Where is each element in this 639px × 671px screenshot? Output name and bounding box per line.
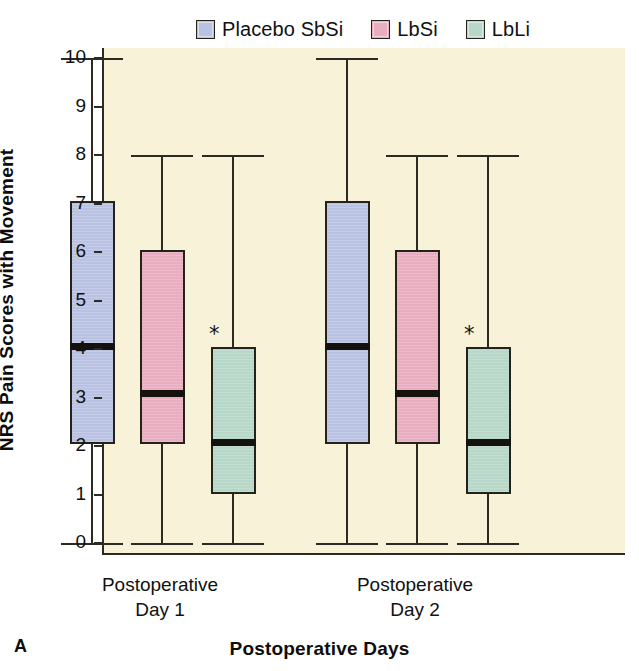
legend-item-lbsi: LbSi bbox=[371, 19, 437, 39]
x-category-label-1: PostoperativeDay 1 bbox=[50, 572, 270, 622]
whisker-upper-lbsi-day2 bbox=[416, 155, 418, 250]
x-category-label-2: PostoperativeDay 2 bbox=[305, 572, 525, 622]
whisker-cap-upper-placebo-sbsi-day2 bbox=[316, 58, 378, 60]
panel-letter: A bbox=[14, 636, 27, 657]
y-tick-mark-0 bbox=[94, 542, 102, 544]
x-category-label-line: Day 2 bbox=[305, 597, 525, 622]
y-tick-mark-6 bbox=[94, 251, 102, 253]
box-texture bbox=[327, 203, 368, 442]
median-line-placebo-sbsi-day2 bbox=[325, 343, 370, 350]
median-line-lbli-day2 bbox=[466, 439, 511, 446]
plot-area: ** bbox=[102, 48, 625, 555]
box-texture bbox=[468, 349, 509, 492]
whisker-cap-upper-lbli-day2 bbox=[457, 155, 519, 157]
y-tick-label-3: 3 bbox=[56, 386, 86, 408]
y-tick-mark-3 bbox=[94, 397, 102, 399]
y-tick-label-4: 4 bbox=[56, 337, 86, 359]
x-axis-title: Postoperative Days bbox=[0, 638, 639, 660]
box-texture bbox=[142, 252, 183, 442]
whisker-cap-upper-lbli-day1 bbox=[202, 155, 264, 157]
box-lbsi-day2 bbox=[395, 250, 440, 444]
y-tick-label-0: 0 bbox=[56, 531, 86, 553]
y-tick-label-10: 10 bbox=[56, 46, 86, 68]
whisker-upper-placebo-sbsi-day2 bbox=[346, 58, 348, 201]
y-tick-label-6: 6 bbox=[56, 240, 86, 262]
whisker-upper-placebo-sbsi-day1 bbox=[91, 58, 93, 201]
box-lbsi-day1 bbox=[140, 250, 185, 444]
y-tick-label-9: 9 bbox=[56, 95, 86, 117]
median-line-lbli-day1 bbox=[211, 439, 256, 446]
x-category-label-line: Postoperative bbox=[305, 572, 525, 597]
legend-label-placebo: Placebo SbSi bbox=[222, 19, 343, 39]
legend-item-lbli: LbLi bbox=[466, 19, 530, 39]
y-tick-label-2: 2 bbox=[56, 434, 86, 456]
median-line-lbsi-day1 bbox=[140, 390, 185, 397]
whisker-upper-lbsi-day1 bbox=[161, 155, 163, 250]
legend-swatch-lbsi bbox=[371, 20, 390, 39]
y-tick-mark-9 bbox=[94, 106, 102, 108]
whisker-cap-lower-lbli-day1 bbox=[202, 543, 264, 545]
y-tick-mark-7 bbox=[94, 203, 102, 205]
box-texture bbox=[213, 349, 254, 492]
whisker-cap-lower-lbli-day2 bbox=[457, 543, 519, 545]
legend-label-lbli: LbLi bbox=[492, 19, 530, 39]
whisker-upper-lbli-day1 bbox=[232, 155, 234, 347]
box-lbli-day2 bbox=[466, 347, 511, 494]
y-tick-mark-10 bbox=[94, 57, 102, 59]
y-tick-mark-5 bbox=[94, 300, 102, 302]
whisker-lower-lbli-day1 bbox=[232, 494, 234, 543]
whisker-cap-lower-placebo-sbsi-day2 bbox=[316, 543, 378, 545]
whisker-lower-lbli-day2 bbox=[487, 494, 489, 543]
y-tick-label-1: 1 bbox=[56, 483, 86, 505]
legend-label-lbsi: LbSi bbox=[397, 19, 437, 39]
y-tick-label-7: 7 bbox=[56, 192, 86, 214]
box-texture bbox=[397, 252, 438, 442]
y-axis-title: NRS Pain Scores with Movement bbox=[0, 149, 18, 451]
x-category-label-line: Postoperative bbox=[50, 572, 270, 597]
whisker-lower-placebo-sbsi-day1 bbox=[91, 444, 93, 543]
box-placebo-sbsi-day2 bbox=[325, 201, 370, 444]
whisker-lower-lbsi-day1 bbox=[161, 444, 163, 543]
y-tick-mark-8 bbox=[94, 154, 102, 156]
y-tick-label-5: 5 bbox=[56, 289, 86, 311]
whisker-upper-lbli-day2 bbox=[487, 155, 489, 347]
legend-swatch-placebo bbox=[196, 20, 215, 39]
whisker-cap-lower-lbsi-day1 bbox=[131, 543, 193, 545]
x-category-label-line: Day 1 bbox=[50, 597, 270, 622]
whisker-cap-lower-lbsi-day2 bbox=[386, 543, 448, 545]
whisker-lower-lbsi-day2 bbox=[416, 444, 418, 543]
box-lbli-day1 bbox=[211, 347, 256, 494]
plot-content: ** bbox=[104, 48, 625, 553]
legend-item-placebo: Placebo SbSi bbox=[196, 19, 343, 39]
y-tick-label-8: 8 bbox=[56, 143, 86, 165]
whisker-cap-upper-lbsi-day2 bbox=[386, 155, 448, 157]
significance-asterisk-lbli-day1: * bbox=[209, 329, 220, 339]
whisker-lower-placebo-sbsi-day2 bbox=[346, 444, 348, 543]
y-tick-mark-4 bbox=[94, 348, 102, 350]
legend-swatch-lbli bbox=[466, 20, 485, 39]
figure-panel-a: Placebo SbSiLbSiLbLi NRS Pain Scores wit… bbox=[0, 0, 639, 671]
significance-asterisk-lbli-day2: * bbox=[464, 329, 475, 339]
median-line-lbsi-day2 bbox=[395, 390, 440, 397]
y-tick-mark-1 bbox=[94, 494, 102, 496]
y-tick-mark-2 bbox=[94, 445, 102, 447]
chart-legend: Placebo SbSiLbSiLbLi bbox=[196, 16, 558, 42]
whisker-cap-upper-lbsi-day1 bbox=[131, 155, 193, 157]
